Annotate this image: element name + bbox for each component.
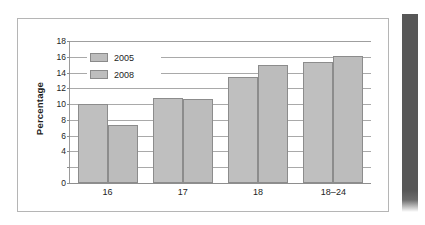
chart-screenshot: Percentage 0468101214161816171818–24 200…: [0, 0, 425, 225]
bar-chart: Percentage 0468101214161816171818–24 200…: [18, 19, 390, 213]
y-axis-tick: [67, 120, 70, 121]
gridline: [70, 41, 371, 42]
y-axis-tick: [67, 136, 70, 137]
y-axis-tick-label: 4: [61, 146, 66, 156]
y-axis-tick: [67, 41, 70, 42]
y-axis-tick: [67, 73, 70, 74]
legend-item: 2008: [90, 66, 158, 83]
y-axis-tick: [67, 151, 70, 152]
y-axis-tick-label: 18: [57, 36, 66, 46]
scanned-page-edge-shadow: [402, 190, 418, 212]
y-axis-tick-label: 16: [57, 52, 66, 62]
x-axis-tick-label: 17: [178, 187, 188, 197]
scanned-page-edge: [402, 14, 418, 210]
y-axis-tick: [67, 88, 70, 89]
y-axis-title: Percentage: [34, 64, 45, 154]
y-axis-tick: [67, 183, 70, 184]
y-axis-tick-label: 14: [57, 68, 66, 78]
y-axis-tick: [67, 104, 70, 105]
figure-frame: Percentage 0468101214161816171818–24 200…: [17, 18, 389, 212]
legend-swatch-icon: [90, 70, 108, 79]
y-axis-tick-label: 12: [57, 83, 66, 93]
bar-2008-17: [183, 99, 213, 183]
y-axis-tick-label: 0: [61, 178, 66, 188]
bar-2005-17: [153, 98, 183, 183]
bar-2008-16: [108, 125, 138, 183]
bar-2005-18–24: [303, 62, 333, 183]
x-axis-tick-label: 16: [103, 187, 113, 197]
bar-2005-18: [228, 77, 258, 184]
x-axis-tick-label: 18: [253, 187, 263, 197]
x-axis-tick-label: 18–24: [321, 187, 346, 197]
y-axis-tick: [67, 167, 70, 168]
bar-2005-16: [78, 104, 108, 183]
legend-swatch-icon: [90, 53, 108, 62]
y-axis-tick-label: 6: [61, 131, 66, 141]
chart-legend: 2005 2008: [87, 47, 161, 85]
y-axis-tick: [67, 57, 70, 58]
y-axis-tick-label: 8: [61, 115, 66, 125]
legend-label: 2005: [114, 53, 134, 63]
y-axis-tick-label: 10: [57, 99, 66, 109]
bar-2008-18: [258, 65, 288, 183]
bar-2008-18–24: [333, 56, 363, 183]
legend-label: 2008: [114, 70, 134, 80]
legend-item: 2005: [90, 49, 158, 66]
